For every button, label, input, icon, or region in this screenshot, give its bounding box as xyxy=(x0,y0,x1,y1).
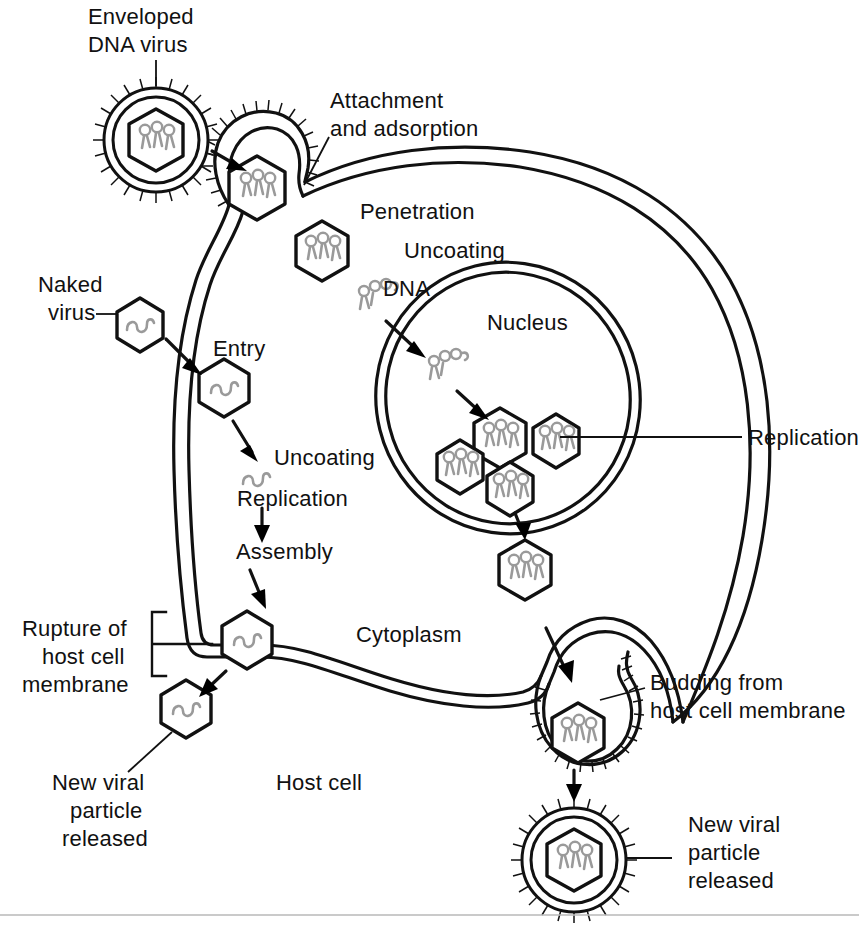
label-attachment-line1: Attachment xyxy=(330,88,443,113)
viral-replication-diagram: Enveloped DNA virus Attachment and adsor… xyxy=(0,0,859,932)
naked-virion-assembled xyxy=(222,611,272,669)
naked-virion-entered xyxy=(199,359,249,417)
label-budding-line2: host cell membrane xyxy=(650,698,846,723)
capsid-nucleus-3 xyxy=(437,440,483,494)
label-new-viral-right-line2: particle xyxy=(688,840,761,865)
dna-in-nucleus xyxy=(429,349,468,379)
arrow-replication-nucleus xyxy=(457,391,489,420)
arrow-nucleus-exit xyxy=(515,513,531,540)
label-assembly: Assembly xyxy=(236,539,333,564)
capsid-nucleus-2 xyxy=(533,414,579,468)
label-naked-virus-line1: Naked xyxy=(38,272,103,297)
enveloped-virion-free xyxy=(93,77,219,203)
label-uncoating-left: Uncoating xyxy=(274,445,375,470)
label-new-viral-left-line1: New viral xyxy=(52,770,144,795)
arrow-assembly xyxy=(254,508,270,543)
label-new-viral-right-line3: released xyxy=(688,868,774,893)
enveloped-virion-released xyxy=(511,797,637,923)
label-dna: DNA xyxy=(383,276,430,301)
leader-new-viral-left xyxy=(128,732,172,772)
capsid-penetrated xyxy=(296,221,348,281)
label-new-viral-left-line2: particle xyxy=(70,798,143,823)
capsid-nucleus-4 xyxy=(487,462,533,516)
label-nucleus: Nucleus xyxy=(487,310,568,335)
label-host-cell: Host cell xyxy=(276,770,362,795)
label-uncoating-top: Uncoating xyxy=(404,238,505,263)
label-budding-line1: Budding from xyxy=(650,670,783,695)
label-rupture-line1: Rupture of xyxy=(22,616,127,641)
arrow-budding-release xyxy=(566,770,582,802)
capsid-budding xyxy=(552,703,604,763)
leader-lines xyxy=(96,60,742,858)
arrow-attachment xyxy=(212,151,247,171)
label-penetration: Penetration xyxy=(360,199,475,224)
arrow-release-left xyxy=(199,671,226,697)
label-replication-left: Replication xyxy=(237,486,348,511)
label-new-viral-left-line3: released xyxy=(62,826,148,851)
rupture-bracket xyxy=(152,612,212,676)
label-attachment-line2: and adsorption xyxy=(330,116,478,141)
label-naked-virus-line2: virus xyxy=(48,300,95,325)
label-replication-right: Replication xyxy=(748,425,859,450)
label-enveloped-virus-line2: DNA virus xyxy=(88,32,188,57)
arrow-to-assembled-virion xyxy=(250,570,266,609)
rna-uncoated xyxy=(243,473,270,486)
label-new-viral-right-line1: New viral xyxy=(688,812,780,837)
label-enveloped-virus-line1: Enveloped xyxy=(88,4,194,29)
arrow-uncoating-left xyxy=(233,421,258,462)
label-cytoplasm: Cytoplasm xyxy=(356,622,462,647)
label-rupture-line2: host cell xyxy=(42,644,125,669)
label-entry: Entry xyxy=(213,336,265,361)
capsid-cytoplasm xyxy=(499,540,551,600)
naked-virion-free xyxy=(117,298,163,352)
label-rupture-line3: membrane xyxy=(22,672,129,697)
diagram-canvas: Enveloped DNA virus Attachment and adsor… xyxy=(0,0,859,932)
